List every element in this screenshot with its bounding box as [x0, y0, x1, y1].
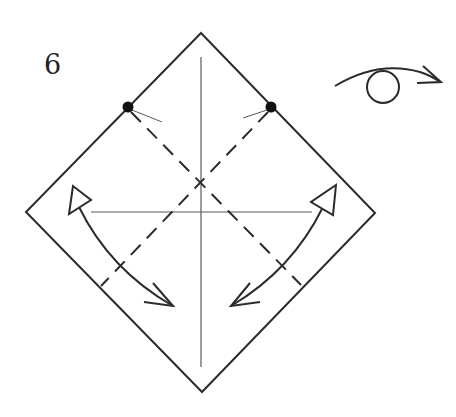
turn-over-icon: [335, 66, 441, 103]
origami-diagram: [0, 0, 456, 417]
reference-dot-right: [266, 102, 277, 113]
fold-arrow-right: [231, 185, 336, 306]
fold-arrow-left: [69, 186, 173, 306]
valley-fold-line-right: [101, 112, 268, 286]
reference-dot-left: [123, 102, 134, 113]
valley-fold-line-left: [131, 112, 301, 285]
reference-tick-left: [132, 110, 162, 122]
